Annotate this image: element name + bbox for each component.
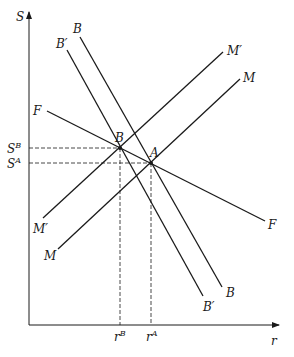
point-A [149, 161, 153, 165]
curve-M-prime [43, 52, 223, 218]
label-B-end: B [225, 286, 235, 300]
tick-SB: SB [7, 141, 21, 156]
axes: S r [16, 10, 279, 348]
tick-rA: rA [146, 329, 158, 344]
x-axis-label: r [271, 334, 278, 348]
curve-M [58, 79, 240, 249]
label-M-prime-end: M′ [226, 44, 242, 58]
point-A-label: A [149, 146, 159, 160]
diagram-canvas: S r B A F F B B B′ B′ M′ M′ M M [0, 0, 294, 357]
label-M-end: M [242, 71, 256, 85]
curve-B-prime [67, 50, 203, 296]
label-M-prime-start: M′ [32, 222, 48, 236]
curves [43, 37, 265, 296]
point-B-label: B [114, 131, 124, 145]
label-M-start: M [43, 249, 57, 263]
point-B [118, 146, 122, 150]
label-F-start: F [32, 104, 42, 118]
label-F-end: F [267, 218, 277, 232]
tick-rB: rB [114, 329, 126, 344]
label-B-prime-end: B′ [202, 300, 215, 314]
tick-SA: SA [7, 156, 21, 171]
label-B-start: B [72, 22, 82, 36]
label-B-prime-start: B′ [55, 37, 68, 51]
y-axis-label: S [16, 10, 24, 24]
curve-F [47, 111, 265, 221]
tick-labels: SB SA rB rA [7, 141, 158, 344]
